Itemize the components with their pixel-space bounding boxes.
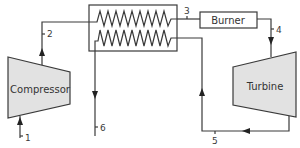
burner-label: Burner [211, 15, 246, 26]
turbine-label: Turbine [246, 81, 284, 92]
compressor-label: Compressor [10, 84, 71, 95]
heat-exchanger-upper-coil [89, 11, 177, 26]
state-label-5: 5 [212, 136, 218, 146]
arrow-up-icon [199, 88, 205, 96]
state-label-2: 2 [47, 29, 53, 39]
arrow-down-icon [268, 37, 274, 45]
state-label-6: 6 [100, 123, 106, 133]
arrow-left-icon [242, 128, 250, 134]
arrow-up-icon [17, 117, 23, 125]
regenerative-gas-turbine-diagram: Compressor Turbine Burner 1 2 3 4 5 6 [0, 0, 300, 148]
arrow-up-icon [39, 48, 45, 56]
state-label-1: 1 [25, 133, 31, 143]
state-label-3: 3 [184, 6, 190, 16]
heat-exchanger-lower-coil [95, 30, 177, 51]
arrow-down-icon [92, 91, 98, 99]
state-label-4: 4 [276, 25, 282, 35]
